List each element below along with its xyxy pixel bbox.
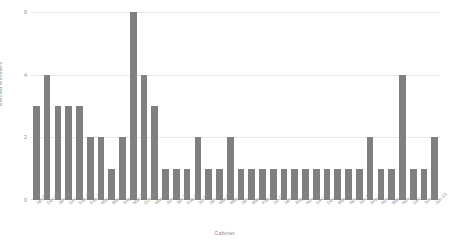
x-label-slot: Jan-10 xyxy=(171,201,182,231)
x-label-slot: Jun-21 xyxy=(419,201,430,231)
x-label-slot: Mar-75 xyxy=(128,201,139,231)
bar[interactable] xyxy=(151,106,158,200)
bar-slot xyxy=(365,12,376,200)
bar-slot xyxy=(117,12,128,200)
bar-slot xyxy=(203,12,214,200)
bar-slot xyxy=(257,12,268,200)
bar[interactable] xyxy=(399,75,406,200)
bar-slot xyxy=(63,12,74,200)
bar-slot xyxy=(128,12,139,200)
bar-series xyxy=(31,12,440,200)
y-axis-tick-label: 0 xyxy=(14,197,27,203)
bar[interactable] xyxy=(130,12,137,200)
bar-slot xyxy=(160,12,171,200)
x-label-slot: Aug-13 xyxy=(289,201,300,231)
bar-slot xyxy=(386,12,397,200)
bar[interactable] xyxy=(431,137,438,200)
bar-slot xyxy=(31,12,42,200)
x-label-slot: Mar-73 xyxy=(106,201,117,231)
bar-slot xyxy=(96,12,107,200)
x-label-slot: Nov-13 xyxy=(300,201,311,231)
x-label-slot: Dec-14 xyxy=(322,201,333,231)
bar-slot xyxy=(171,12,182,200)
bar[interactable] xyxy=(44,75,51,200)
bar-slot xyxy=(182,12,193,200)
bar-slot xyxy=(106,12,117,200)
x-label-slot: Feb-71 xyxy=(85,201,96,231)
x-label-slot: Sep-15 xyxy=(365,201,376,231)
y-axis-tick-label: 6 xyxy=(14,9,27,15)
x-label-slot: Mar-08 xyxy=(149,201,160,231)
x-label-slot: May-06 xyxy=(225,201,236,231)
x-label-slot: Jan-66 xyxy=(53,201,64,231)
x-label-slot: Jul-05 xyxy=(192,201,203,231)
x-label-slot: Feb-05 xyxy=(182,201,193,231)
bar-slot xyxy=(289,12,300,200)
x-label-slot: Nov-17 xyxy=(397,201,408,231)
x-label-slot: Mar-11 xyxy=(246,201,257,231)
bar-slot xyxy=(397,12,408,200)
bar-slot xyxy=(332,12,343,200)
bar[interactable] xyxy=(76,106,83,200)
bar-slot xyxy=(85,12,96,200)
x-label-slot: Sep-74 xyxy=(117,201,128,231)
x-label-slot: Dec-18 xyxy=(408,201,419,231)
x-label-slot: Jan-13 xyxy=(279,201,290,231)
bar-slot xyxy=(376,12,387,200)
x-label-slot: Dec-64 xyxy=(42,201,53,231)
x-label-slot: Mar-72 xyxy=(96,201,107,231)
x-label-slot: Mar-06 xyxy=(214,201,225,231)
x-label-slot: Apr-15 xyxy=(343,201,354,231)
y-axis-tick-label: 4 xyxy=(14,72,27,78)
x-label-slot: Mar-15 xyxy=(332,201,343,231)
bar[interactable] xyxy=(119,137,126,200)
x-label-slot: Jun-15 xyxy=(354,201,365,231)
bar-slot xyxy=(268,12,279,200)
x-label-slot: Nov-15 xyxy=(376,201,387,231)
x-label-slot: Jan-08 xyxy=(236,201,247,231)
x-label-slot: Oct-06 xyxy=(139,201,150,231)
bar[interactable] xyxy=(141,75,148,200)
x-label-slot: Jun-23 xyxy=(429,201,440,231)
bar-slot xyxy=(236,12,247,200)
x-axis-title: Cabinet xyxy=(0,230,449,236)
x-label-slot: Dec-13 xyxy=(311,201,322,231)
y-axis-title: Elected Ministers xyxy=(0,62,3,106)
plot-area xyxy=(31,12,440,200)
x-label-slot: Feb-12 xyxy=(257,201,268,231)
bar[interactable] xyxy=(65,106,72,200)
bar-slot xyxy=(74,12,85,200)
bar-slot xyxy=(429,12,440,200)
y-axis-tick-label: 2 xyxy=(14,134,27,140)
x-label-slot: Dec-68 xyxy=(63,201,74,231)
bar-slot xyxy=(408,12,419,200)
bar-slot xyxy=(225,12,236,200)
x-label-slot: Mar-16 xyxy=(386,201,397,231)
bar-slot xyxy=(343,12,354,200)
bar-slot xyxy=(322,12,333,200)
bar-slot xyxy=(139,12,150,200)
bar-slot xyxy=(246,12,257,200)
bar-slot xyxy=(214,12,225,200)
bar-slot xyxy=(419,12,430,200)
bar-slot xyxy=(354,12,365,200)
bar-chart: 0246 Elected Ministers Jan-63Dec-64Jan-6… xyxy=(0,0,449,247)
bar-slot xyxy=(279,12,290,200)
bar-slot xyxy=(53,12,64,200)
bar-slot xyxy=(42,12,53,200)
bar-slot xyxy=(149,12,160,200)
bar-slot xyxy=(300,12,311,200)
x-label-slot: Jul-12 xyxy=(268,201,279,231)
x-label-slot: Jan-63 xyxy=(31,201,42,231)
bar[interactable] xyxy=(55,106,62,200)
bar-slot xyxy=(311,12,322,200)
x-label-slot: Feb-70 xyxy=(74,201,85,231)
bar-slot xyxy=(192,12,203,200)
x-label-slot: Jan-06 xyxy=(203,201,214,231)
x-axis-labels: Jan-63Dec-64Jan-66Dec-68Feb-70Feb-71Mar-… xyxy=(31,201,440,231)
x-label-slot: Jun-09 xyxy=(160,201,171,231)
bar[interactable] xyxy=(33,106,40,200)
